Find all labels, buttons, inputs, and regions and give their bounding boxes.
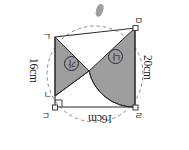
geometry-figure: 16cm 16cm 20cm ㄹ ㄷ ㄴ ㅁ ㄱ 나 가 [0, 0, 189, 150]
vertex-label-bottom-left: ㅁ [135, 15, 143, 24]
vertex-label-top-right: ㄷ [42, 110, 50, 119]
dimension-label-left: 20cm [142, 55, 154, 80]
rotated-drawing-canvas: 16cm 16cm 20cm ㄹ ㄷ ㄴ ㅁ ㄱ 나 가 [0, 0, 189, 150]
shaded-region-left [89, 28, 135, 107]
region-tag-left: 나 [108, 49, 123, 64]
vertex-node-top-right-icon [53, 105, 58, 110]
vertex-label-top-left: ㄹ [135, 110, 143, 119]
vertex-label-inner-right: ㄱ [44, 89, 52, 98]
region-tag-right: 가 [64, 56, 79, 71]
dimension-label-right: 16cm [28, 58, 40, 83]
vertex-label-bottom-right: ㄴ [43, 31, 51, 40]
dimension-label-top: 16cm [88, 113, 113, 125]
vertex-node-bottom-left-icon [133, 26, 138, 31]
